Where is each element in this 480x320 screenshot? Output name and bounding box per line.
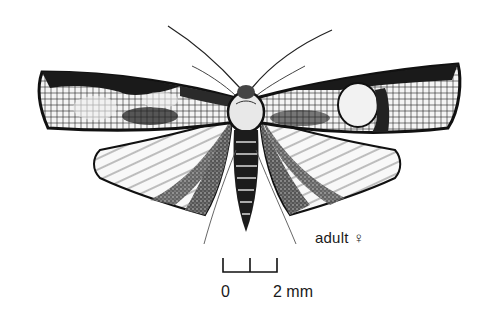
abdomen bbox=[234, 130, 259, 232]
head bbox=[237, 85, 255, 99]
scale-end-label: 2 mm bbox=[273, 283, 313, 301]
right-antenna bbox=[252, 30, 332, 88]
scale-start-label: 0 bbox=[221, 283, 230, 301]
specimen-label: adult ♀ bbox=[315, 229, 364, 246]
moth-drawing bbox=[0, 0, 480, 320]
moth-illustration-figure: adult ♀ 0 2 mm bbox=[0, 0, 480, 320]
left-antenna bbox=[168, 26, 240, 88]
scale-bar bbox=[223, 258, 277, 272]
